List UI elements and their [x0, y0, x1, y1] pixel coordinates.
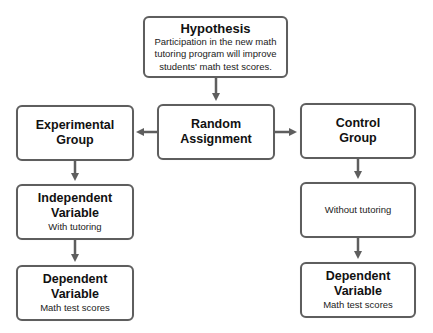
dependent-variable-right-title-line-1: Dependent — [326, 269, 391, 284]
dependent-variable-left-text: Math test scores — [40, 302, 110, 314]
dependent-variable-left-box: Dependent Variable Math test scores — [16, 265, 134, 321]
control-condition-text: Without tutoring — [325, 204, 392, 216]
dependent-variable-right-title-line-2: Variable — [334, 284, 382, 299]
experimental-group-title-line-1: Experimental — [36, 118, 115, 133]
independent-variable-title-line-1: Independent — [38, 191, 112, 206]
dependent-variable-right-box: Dependent Variable Math test scores — [300, 262, 416, 318]
random-assignment-box: Random Assignment — [157, 104, 275, 160]
control-group-title-line-2: Group — [339, 131, 377, 146]
control-group-title-line-1: Control — [336, 116, 380, 131]
hypothesis-box: Hypothesis Participation in the new math… — [143, 16, 288, 78]
dependent-variable-left-title-line-2: Variable — [51, 287, 99, 302]
independent-variable-title-line-2: Variable — [51, 206, 99, 221]
experimental-group-title-line-2: Group — [56, 133, 94, 148]
control-group-box: Control Group — [300, 103, 416, 159]
hypothesis-title: Hypothesis — [180, 21, 250, 36]
hypothesis-text-line-2: tutoring program will improve — [155, 48, 277, 61]
independent-variable-box: Independent Variable With tutoring — [16, 184, 134, 240]
experimental-group-box: Experimental Group — [16, 105, 134, 161]
independent-variable-text: With tutoring — [48, 221, 101, 233]
hypothesis-text-line-3: students' math test scores. — [159, 61, 272, 74]
control-condition-box: Without tutoring — [300, 182, 416, 238]
dependent-variable-left-title-line-1: Dependent — [43, 272, 108, 287]
random-assignment-title-line-1: Random — [191, 117, 241, 132]
dependent-variable-right-text: Math test scores — [323, 299, 393, 311]
hypothesis-text-line-1: Participation in the new math — [155, 36, 277, 49]
random-assignment-title-line-2: Assignment — [180, 132, 252, 147]
